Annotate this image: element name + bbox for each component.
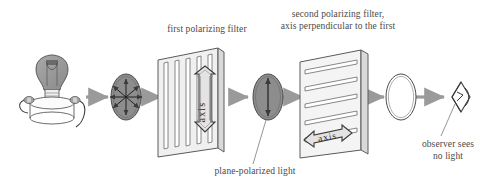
label-second-filter-line1: second polarizing filter, <box>258 9 418 21</box>
observer-eye-icon <box>452 82 470 112</box>
first-polarizing-filter <box>158 48 224 157</box>
light-bulb-icon <box>20 55 85 127</box>
leader-plane-polarized <box>253 120 266 164</box>
label-first-filter: first polarizing filter <box>152 24 262 36</box>
second-polarizing-filter <box>300 50 368 158</box>
no-light-ellipse <box>386 74 416 120</box>
axis-label-first-filter: axis <box>196 102 207 123</box>
unpolarized-light-ellipse <box>110 74 142 120</box>
label-observer-line2: no light <box>406 151 490 163</box>
leader-observer <box>441 104 455 136</box>
label-observer-line1: observer sees <box>406 139 490 151</box>
label-plane-polarized-light: plane-polarized light <box>190 166 320 178</box>
plane-polarized-light-ellipse <box>253 74 283 120</box>
label-second-filter-line2: axis perpendicular to the first <box>258 21 418 33</box>
polarization-diagram: axis axis <box>0 0 497 196</box>
